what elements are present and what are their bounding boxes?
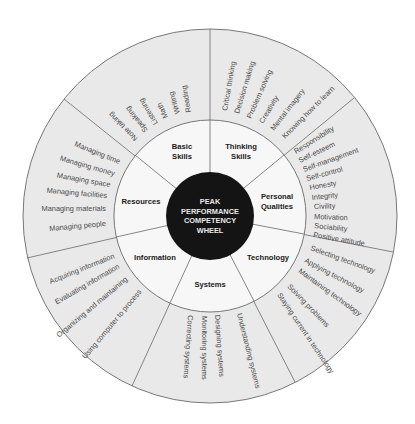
label-technology: Technology (247, 253, 290, 262)
label-personal-qualities-1: Personal (261, 192, 293, 201)
label-information: Information (134, 253, 176, 262)
label-personal-qualities-2: Qualities (261, 202, 293, 211)
label-thinking-skills-1: Thinking (225, 142, 257, 151)
hub-line-1: PEAK (200, 197, 221, 206)
hub-line-2: PERFORMANCE (181, 207, 239, 216)
competency-wheel: PEAK PERFORMANCE COMPETENCY WHEEL Basic … (0, 0, 415, 424)
skill-managing-materials: Managing materials (42, 204, 107, 213)
hub-line-4: WHEEL (197, 226, 224, 235)
label-basic-skills-2: Skills (172, 152, 192, 161)
label-systems: Systems (194, 280, 225, 289)
label-basic-skills-1: Basic (172, 142, 192, 151)
hub-line-3: COMPETENCY (184, 216, 236, 225)
skill-civility: Civility (314, 201, 336, 211)
label-resources: Resources (122, 197, 161, 206)
skill-monitoring-systems: Monitoring systems (200, 316, 209, 380)
label-thinking-skills-2: Skills (231, 152, 251, 161)
